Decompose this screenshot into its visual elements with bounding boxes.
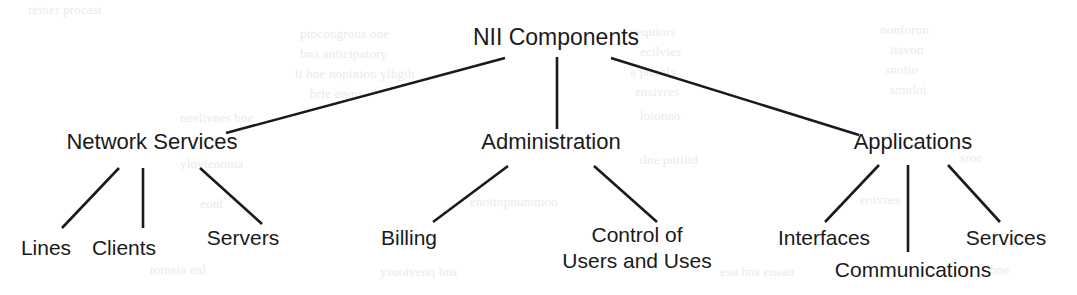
node-interfaces: Interfaces [778,225,870,251]
node-control-of-users-and-uses-line-2: Users and Uses [562,248,711,274]
node-lines: Lines [21,235,71,261]
node-control-of-users-and-uses: Control ofUsers and Uses [562,222,711,273]
node-services: Services [966,225,1047,251]
node-nii-components: NII Components [473,23,639,51]
node-network-services: Network Services [66,129,237,156]
node-administration: Administration [481,129,620,156]
node-clients: Clients [92,235,156,261]
diagram-canvas: reiner procastptocongrous onee nequiorsn… [0,0,1077,295]
node-control-of-users-and-uses-line-1: Control of [562,222,711,248]
node-applications: Applications [854,129,973,156]
node-servers: Servers [207,225,279,251]
node-communications: Communications [835,257,991,283]
node-billing: Billing [381,225,437,251]
node-layer: NII ComponentsNetwork ServicesLinesClien… [0,0,1077,295]
